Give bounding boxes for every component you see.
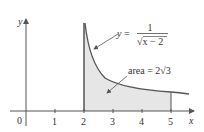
x-tick-label-5: 5 <box>168 116 173 127</box>
x-axis-label: x <box>188 115 194 126</box>
x-tick-label-2: 2 <box>81 116 86 127</box>
x-tick-label-3: 3 <box>110 116 115 127</box>
x-tick-label-0: 0 <box>17 115 22 126</box>
x-tick-label-1: 1 <box>52 116 57 127</box>
function-label-lhs: y = <box>116 28 130 39</box>
area-annotation: area = 2√3 <box>128 65 171 76</box>
function-label-denominator: √x − 2 <box>137 36 163 47</box>
x-tick-label-4: 4 <box>139 116 144 127</box>
function-label-numerator: 1 <box>148 22 153 33</box>
function-pointer-arrow <box>94 34 118 49</box>
y-axis-label: y <box>17 16 23 27</box>
chart: 0 1 2 3 4 5 x y y = 1 √x − 2 area = 2√3 <box>0 0 204 132</box>
